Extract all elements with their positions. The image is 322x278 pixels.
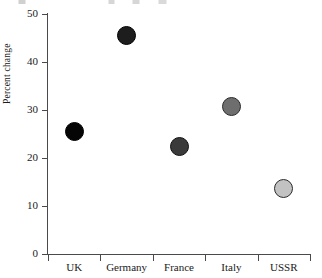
- data-point-ussr: [274, 179, 293, 198]
- y-axis-title: Percent change: [2, 43, 12, 104]
- data-point-italy: [222, 97, 241, 116]
- y-tick-label: 10: [8, 200, 38, 211]
- y-tick-mark: [42, 158, 48, 159]
- y-tick-label: 50: [8, 8, 38, 19]
- y-tick-label: 30: [8, 104, 38, 115]
- y-axis-line: [47, 13, 48, 255]
- x-tick-label-ussr: USSR: [249, 261, 319, 273]
- y-tick-label: 40: [8, 56, 38, 67]
- y-tick-mark: [42, 110, 48, 111]
- y-tick-mark: [42, 14, 48, 15]
- y-tick-mark: [42, 206, 48, 207]
- y-tick-mark: [42, 62, 48, 63]
- y-tick-label: 0: [8, 248, 38, 259]
- chart-figure: Percent change 01020304050 UKGermanyFran…: [0, 0, 322, 278]
- y-tick-label: 20: [8, 152, 38, 163]
- data-point-uk: [65, 122, 84, 141]
- x-axis-line: [47, 254, 311, 255]
- data-point-germany: [117, 26, 136, 45]
- scan-artifact: [0, 0, 322, 4]
- data-point-france: [170, 137, 189, 156]
